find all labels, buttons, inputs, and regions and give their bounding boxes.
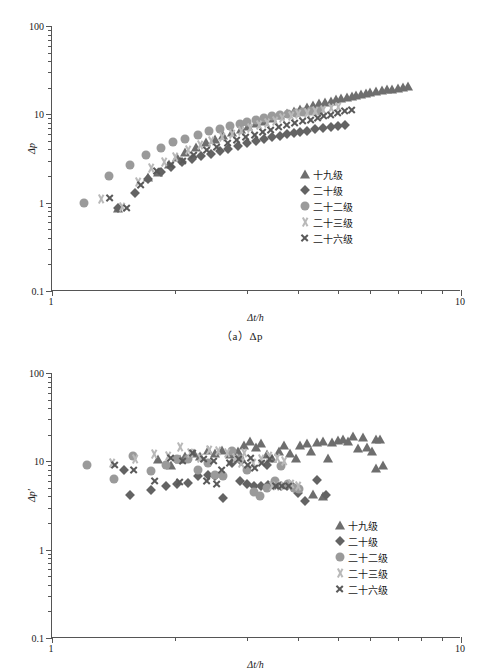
- marker-x-dark: [266, 125, 275, 134]
- x-axis-title-b: Δt/h: [216, 659, 296, 669]
- marker-circle: [255, 492, 264, 501]
- marker-diamond: [177, 158, 187, 168]
- marker-triangle: [274, 447, 284, 456]
- marker-x-dark: [202, 476, 211, 485]
- marker-x-light: [170, 152, 180, 162]
- marker-triangle: [375, 434, 385, 443]
- marker-circle: [169, 138, 178, 147]
- marker-x-light: [256, 454, 266, 464]
- marker-x-light: [133, 177, 143, 187]
- marker-triangle: [289, 106, 299, 115]
- marker-circle: [260, 113, 269, 122]
- marker-triangle: [295, 440, 305, 449]
- legend-label: 二十二级: [348, 550, 388, 565]
- marker-x-light: [262, 118, 272, 128]
- marker-x-dark: [212, 480, 221, 489]
- marker-x-dark: [150, 476, 159, 485]
- marker-x-light: [222, 448, 232, 458]
- marker-diamond: [131, 188, 141, 198]
- marker-triangle: [291, 453, 301, 462]
- marker-x-dark: [188, 448, 197, 457]
- legend-label: 十九级: [348, 518, 378, 533]
- legend-label: 二十级: [313, 183, 343, 198]
- marker-diamond: [249, 481, 259, 491]
- y-tick-minor: [48, 596, 52, 597]
- y-tick-minor: [48, 393, 52, 394]
- y-axis-tick-label: 100: [29, 368, 51, 379]
- figure-a-caption: （a）Δp: [0, 327, 484, 343]
- legend-label: 二十六级: [348, 582, 388, 597]
- marker-x-dark: [234, 455, 243, 464]
- marker-circle: [300, 202, 309, 211]
- marker-triangle: [180, 148, 190, 157]
- marker-x-light: [310, 106, 320, 116]
- marker-x-light: [248, 458, 258, 468]
- marker-x-light: [326, 103, 336, 113]
- legend-item-1: 十九级: [333, 517, 388, 533]
- x-tick-minor: [421, 637, 422, 641]
- marker-x-light: [163, 451, 173, 461]
- marker-x-dark: [246, 453, 255, 462]
- marker-x-dark: [178, 457, 187, 466]
- marker-x-dark: [110, 461, 119, 470]
- y-tick-minor: [48, 238, 52, 239]
- x-tick-minor: [175, 637, 176, 641]
- marker-triangle: [153, 168, 163, 177]
- marker-diamond: [312, 475, 322, 485]
- marker-x-light: [217, 132, 227, 142]
- marker-circle: [194, 130, 203, 139]
- marker-triangle: [348, 431, 358, 440]
- marker-circle: [183, 455, 192, 464]
- marker-triangle: [335, 521, 345, 530]
- marker-x-dark: [250, 130, 259, 139]
- marker-triangle: [314, 99, 324, 108]
- legend-marker-circle-icon: [298, 200, 311, 213]
- marker-x-dark: [306, 115, 315, 124]
- marker-circle: [235, 119, 244, 128]
- legend-marker-x-dark-icon: [298, 232, 311, 245]
- marker-x-dark: [335, 585, 344, 594]
- marker-diamond: [259, 134, 269, 144]
- marker-x-light: [254, 120, 264, 130]
- marker-x-light: [195, 140, 205, 150]
- marker-triangle: [347, 91, 357, 100]
- y-tick-minor: [48, 496, 52, 497]
- marker-diamond: [310, 124, 320, 134]
- marker-triangle: [243, 121, 253, 130]
- marker-x-dark: [166, 453, 175, 462]
- marker-x-light: [239, 448, 249, 458]
- marker-triangle: [201, 137, 211, 146]
- marker-circle: [125, 160, 134, 169]
- marker-circle: [194, 465, 203, 474]
- marker-diamond: [282, 481, 292, 491]
- marker-x-dark: [129, 465, 138, 474]
- marker-x-dark: [209, 457, 218, 466]
- marker-circle: [243, 465, 252, 474]
- marker-triangle: [300, 170, 310, 179]
- marker-diamond: [161, 481, 171, 491]
- marker-triangle: [382, 85, 392, 94]
- marker-x-dark: [284, 482, 293, 491]
- y-tick-minor: [48, 419, 52, 420]
- x-tick-minor: [247, 637, 248, 641]
- y-tick-minor: [48, 141, 52, 142]
- marker-circle: [284, 480, 293, 489]
- marker-x-dark: [271, 481, 280, 490]
- marker-x-light: [149, 449, 159, 459]
- y-tick-minor: [48, 61, 52, 62]
- marker-triangle: [256, 439, 266, 448]
- marker-circle: [147, 466, 156, 475]
- x-tick-minor: [442, 637, 443, 641]
- y-tick-minor: [48, 72, 52, 73]
- marker-circle: [203, 459, 212, 468]
- marker-x-dark: [340, 107, 349, 116]
- marker-circle: [227, 447, 236, 456]
- marker-circle: [219, 472, 228, 481]
- marker-x-light: [293, 481, 303, 491]
- marker-x-light: [206, 136, 216, 146]
- y-tick-minor: [48, 35, 52, 36]
- y-tick-minor: [48, 249, 52, 250]
- marker-circle: [267, 112, 276, 121]
- marker-triangle: [308, 489, 318, 498]
- marker-triangle: [338, 434, 348, 443]
